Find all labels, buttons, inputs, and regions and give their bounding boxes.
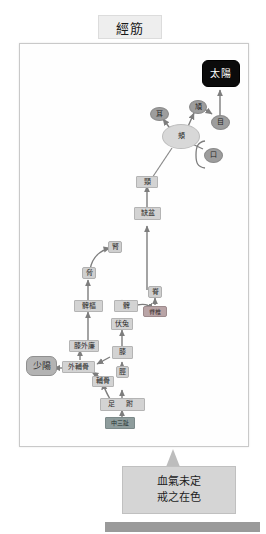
node-shin[interactable]: 脛 <box>116 366 129 378</box>
node-taiyang[interactable]: 太陽 <box>202 60 240 87</box>
node-cheekbone[interactable]: 頄 <box>189 100 207 114</box>
node-spine[interactable]: 脊 <box>148 286 162 298</box>
node-outer-fubone[interactable]: 外輔骨 <box>62 361 95 373</box>
node-kidney[interactable]: 腎 <box>108 241 122 253</box>
node-quepen[interactable]: 缺盆 <box>134 207 161 220</box>
node-futu[interactable]: 伏兔 <box>111 318 133 330</box>
callout-line-2: 戒之在色 <box>157 490 201 506</box>
callout-tail <box>166 449 180 467</box>
node-ear[interactable]: 耳 <box>150 107 169 121</box>
node-fubone[interactable]: 輔骨 <box>92 376 114 387</box>
node-third-toe[interactable]: 中三趾 <box>105 417 135 429</box>
node-shaoyang[interactable]: 少陽 <box>26 356 57 376</box>
slide-stage: 經筋 <box>0 0 266 534</box>
node-mouth[interactable]: 口 <box>204 148 223 163</box>
node-cheek[interactable]: 頰 <box>162 124 200 149</box>
node-rib[interactable]: 脅 <box>82 267 96 279</box>
node-neck[interactable]: 頸 <box>136 176 158 188</box>
node-zufu[interactable]: 足 跗 <box>100 398 145 411</box>
node-thigh[interactable]: 髀 <box>114 300 138 312</box>
node-knee[interactable]: 膝 <box>112 346 133 359</box>
node-eye[interactable]: 目 <box>211 115 230 130</box>
bottom-bar <box>105 522 260 532</box>
callout-line-1: 血氣未定 <box>157 474 201 490</box>
node-pivot[interactable]: 髀樞 <box>74 300 103 312</box>
callout-box: 血氣未定 戒之在色 <box>122 466 236 514</box>
node-jizhu[interactable]: 脊椎 <box>143 306 167 317</box>
node-knee-outer[interactable]: 膝外廉 <box>69 340 99 352</box>
